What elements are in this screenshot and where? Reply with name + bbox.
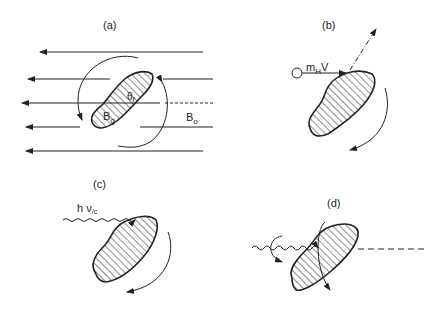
panel-a: (a) θf Bg Bo	[22, 19, 213, 151]
panel-a-label: (a)	[103, 19, 116, 31]
b0-label: Bo	[186, 111, 198, 126]
dust-grain-a	[92, 72, 153, 128]
panel-c-label: (c)	[93, 178, 106, 190]
momentum-label: mHV	[306, 61, 329, 76]
grain-alignment-diagram: (a) θf Bg Bo (b) mHV (c) h ν/c	[0, 0, 443, 314]
panel-d: (d)	[252, 197, 425, 290]
hydrogen-atom-icon	[292, 68, 302, 78]
photon-label: h ν/c	[77, 202, 98, 215]
panel-b: (b) mHV	[292, 19, 387, 150]
dust-grain-c	[93, 216, 157, 282]
panel-d-label: (d)	[327, 197, 340, 209]
panel-b-label: (b)	[322, 19, 335, 31]
dust-grain-b	[309, 71, 375, 136]
panel-c: (c) h ν/c	[63, 178, 171, 292]
